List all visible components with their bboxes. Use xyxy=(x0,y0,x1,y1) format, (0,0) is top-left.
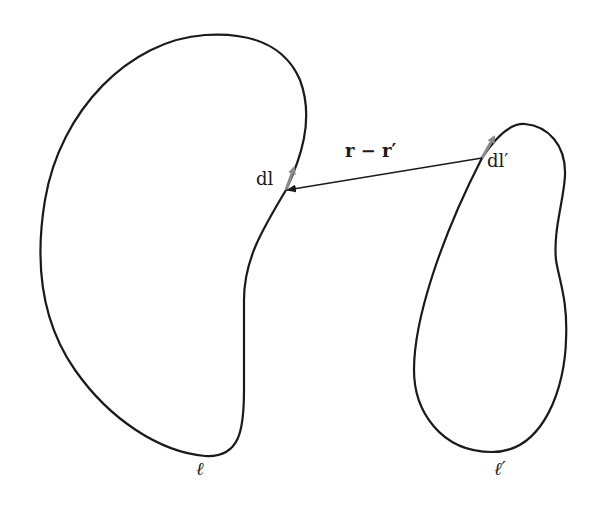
dl-arrow xyxy=(286,168,294,190)
loop-l-label: ℓ xyxy=(196,458,204,480)
dl-label: dl xyxy=(256,168,273,189)
diagram-canvas xyxy=(0,0,594,512)
loop-l-curve xyxy=(40,35,306,457)
separation-label: r − r′ xyxy=(345,140,396,161)
loop-l-prime-curve xyxy=(414,124,566,452)
separation-arrow xyxy=(287,158,482,190)
dl-prime-label: dl′ xyxy=(487,150,508,171)
loop-l-prime-label: ℓ′ xyxy=(494,458,506,480)
